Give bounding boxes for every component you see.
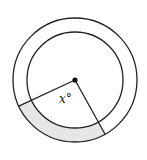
- center-point: [72, 77, 77, 82]
- shaded-annular-sector: [19, 100, 105, 142]
- annulus-diagram: [0, 0, 147, 160]
- angle-label: x°: [59, 93, 72, 105]
